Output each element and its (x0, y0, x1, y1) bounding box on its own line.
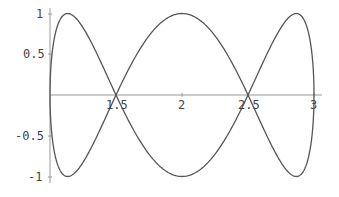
x-tick-label: 2.5 (238, 99, 260, 111)
plot-area (0, 0, 339, 197)
y-tick-label: -0.5 (15, 130, 44, 142)
y-tick-label: 0.5 (23, 48, 45, 60)
y-tick-label: 1 (36, 8, 43, 20)
x-tick-label: 2 (178, 99, 185, 111)
x-tick-label: 3 (310, 99, 317, 111)
x-tick-label: 1.5 (106, 99, 128, 111)
y-tick-label: -1 (28, 171, 42, 183)
